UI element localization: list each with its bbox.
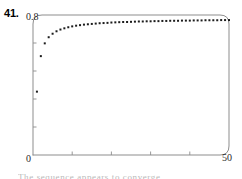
data-point-marker <box>95 23 97 25</box>
data-point-marker <box>154 20 156 22</box>
y-axis-tick-label-max: 0.8 <box>26 11 39 22</box>
x-axis-tick-label-min: 0 <box>26 153 31 164</box>
data-point-marker <box>204 19 206 21</box>
data-point-marker <box>193 19 195 21</box>
data-point-marker <box>122 21 124 23</box>
data-point-marker <box>177 20 179 22</box>
data-point-marker <box>228 19 230 21</box>
data-point-marker <box>169 20 171 22</box>
data-point-marker <box>71 25 73 27</box>
cut-off-caption-text: The sequence appears to converge <box>18 172 224 179</box>
data-point-marker <box>161 20 163 22</box>
data-point-marker <box>185 20 187 22</box>
data-point-marker <box>110 22 112 24</box>
data-point-marker <box>189 20 191 22</box>
data-point-marker <box>212 19 214 21</box>
figure-container: 41. 0.8 0 50 The sequence appears to con… <box>0 0 242 179</box>
data-point-marker <box>165 20 167 22</box>
data-point-marker <box>134 21 136 23</box>
data-point-marker <box>197 19 199 21</box>
data-point-marker <box>91 23 93 25</box>
data-point-marker <box>67 26 69 28</box>
plot-frame <box>33 15 229 155</box>
data-point-marker <box>216 19 218 21</box>
data-point-marker <box>106 22 108 24</box>
data-point-marker <box>103 22 105 24</box>
data-point-marker <box>118 21 120 23</box>
data-point-marker <box>44 42 46 44</box>
data-point-marker <box>75 25 77 27</box>
plot-frame-path <box>33 15 229 155</box>
data-point-marker <box>208 19 210 21</box>
data-point-marker <box>146 20 148 22</box>
data-point-marker <box>142 20 144 22</box>
data-point-marker <box>59 29 61 31</box>
data-point-marker <box>130 21 132 23</box>
data-point-marker <box>138 20 140 22</box>
data-point-marker <box>220 19 222 21</box>
plot-area <box>24 10 238 170</box>
data-point-marker <box>224 19 226 21</box>
data-point-marker <box>63 27 65 29</box>
scatter-plot-svg <box>24 10 238 170</box>
data-point-marker <box>173 20 175 22</box>
data-point-marker <box>99 22 101 24</box>
data-point-marker <box>79 24 81 26</box>
data-point-marker <box>40 55 42 57</box>
data-point-marker <box>201 19 203 21</box>
data-point-marker <box>56 30 58 32</box>
data-point-marker <box>157 20 159 22</box>
data-point-marker <box>83 24 85 26</box>
x-axis-ticks <box>72 152 190 156</box>
data-point-marker <box>150 20 152 22</box>
data-point-marker <box>126 21 128 23</box>
problem-number-label: 41. <box>4 7 19 19</box>
data-point-marker <box>48 36 50 38</box>
data-point-markers <box>36 19 230 93</box>
x-axis-tick-label-max: 50 <box>222 152 232 163</box>
data-point-marker <box>52 33 54 35</box>
data-point-marker <box>114 21 116 23</box>
data-point-marker <box>181 20 183 22</box>
data-point-marker <box>36 91 38 93</box>
y-axis-ticks <box>33 43 37 127</box>
data-point-marker <box>87 23 89 25</box>
